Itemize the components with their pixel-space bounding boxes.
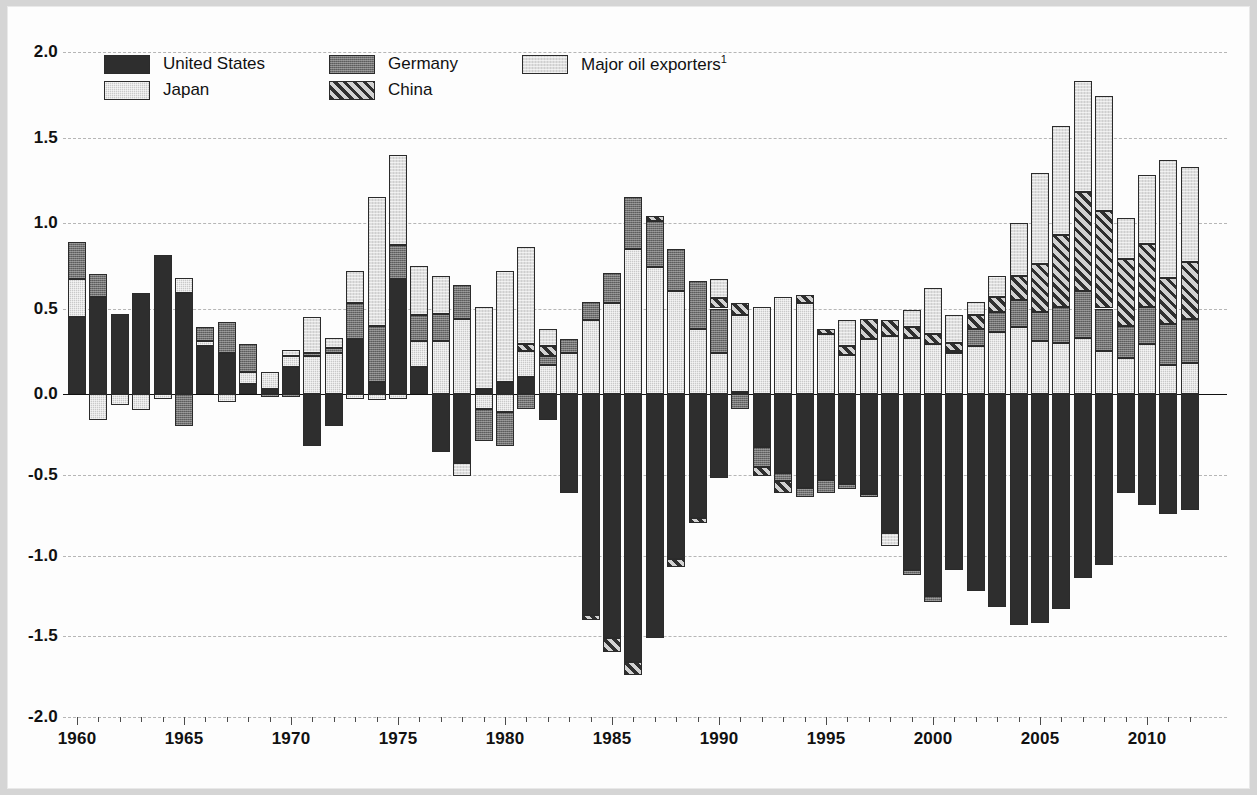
- bar-segment-jp: [175, 278, 193, 293]
- bar-segment-jp: [68, 279, 86, 317]
- bar-segment-jp: [710, 353, 728, 394]
- x-axis-tick-label: 1960: [58, 729, 97, 749]
- x-axis-tick-mark: [312, 717, 313, 722]
- bar-segment-us: [710, 394, 728, 478]
- bar-segment-jp: [774, 297, 792, 394]
- bar-segment-jp: [796, 303, 814, 394]
- bar-segment-cn: [881, 320, 899, 335]
- bar-segment-cn: [539, 346, 557, 356]
- bar-segment-de: [303, 353, 321, 356]
- bar-segment-cn: [860, 319, 878, 340]
- bar-segment-de: [667, 249, 685, 292]
- bar-segment-jp: [689, 329, 707, 394]
- legend-swatch-cn-icon: [329, 81, 375, 100]
- legend-item-de[interactable]: Germany: [329, 53, 458, 75]
- bar-segment-cn: [945, 343, 963, 352]
- bar-segment-jp: [154, 394, 172, 399]
- x-axis-tick-mark: [120, 717, 121, 722]
- bar-segment-us: [988, 394, 1006, 607]
- bar-segment-jp: [903, 338, 921, 394]
- bar-segment-cn: [517, 344, 535, 351]
- bar-segment-jp: [1159, 365, 1177, 394]
- bar-group: [860, 7, 878, 717]
- bar-segment-oil: [1181, 167, 1199, 263]
- bar-group: [624, 7, 642, 717]
- x-axis-tick-mark: [141, 717, 142, 722]
- bar-segment-cn: [1095, 211, 1113, 308]
- bar-segment-us: [410, 367, 428, 394]
- bar-segment-us: [111, 314, 129, 394]
- bar-segment-jp: [539, 365, 557, 394]
- bar-segment-us: [582, 394, 600, 615]
- bar-segment-cn: [1010, 276, 1028, 300]
- bar-segment-us: [924, 394, 942, 596]
- bar-group: [689, 7, 707, 717]
- x-axis-tick-mark: [1126, 717, 1127, 722]
- x-axis-tick-mark: [912, 717, 913, 722]
- x-axis-tick-mark: [1061, 717, 1062, 722]
- bar-segment-us: [1138, 394, 1156, 505]
- bar-segment-jp: [1095, 351, 1113, 394]
- bar-segment-de: [1074, 291, 1092, 337]
- bar-group: [111, 7, 129, 717]
- bar-segment-de: [1052, 307, 1070, 343]
- x-axis-tick-mark: [569, 717, 570, 722]
- bar-segment-jp: [389, 394, 407, 399]
- chart-screenshot: 2.01.51.00.50.0-0.5-1.0-1.5-2.0 19601965…: [0, 0, 1257, 795]
- bar-segment-cn: [1031, 264, 1049, 312]
- x-axis-tick-mark: [954, 717, 955, 722]
- bar-segment-de: [175, 394, 193, 426]
- bar-segment-de: [582, 302, 600, 321]
- bar-segment-us: [646, 394, 664, 638]
- bar-segment-cn: [924, 334, 942, 344]
- bar-segment-cn: [967, 315, 985, 329]
- bar-segment-oil: [1074, 81, 1092, 192]
- bar-segment-cn: [667, 559, 685, 567]
- x-axis-tick-label: 1970: [272, 729, 311, 749]
- bar-group: [389, 7, 407, 717]
- x-axis-tick-mark: [1168, 717, 1169, 722]
- x-axis-tick-mark: [826, 717, 827, 725]
- bar-segment-oil: [539, 329, 557, 346]
- bar-segment-de: [453, 285, 471, 319]
- bar-segment-de: [860, 494, 878, 497]
- bar-segment-oil: [1010, 223, 1028, 276]
- bar-segment-jp: [132, 394, 150, 410]
- x-axis-tick-mark: [248, 717, 249, 722]
- bar-segment-de: [1117, 326, 1135, 358]
- bar-segment-jp: [410, 341, 428, 367]
- x-axis-tick-mark: [933, 717, 934, 725]
- bar-segment-jp: [924, 344, 942, 394]
- bar-segment-oil: [475, 307, 493, 389]
- bar-group: [1095, 7, 1113, 717]
- bar-segment-us: [132, 293, 150, 394]
- bar-segment-oil: [1117, 218, 1135, 259]
- legend-item-us[interactable]: United States: [104, 53, 265, 75]
- bar-group: [196, 7, 214, 717]
- bar-segment-jp: [988, 332, 1006, 394]
- legend-item-oil[interactable]: Major oil exporters1: [522, 53, 727, 75]
- bar-group: [303, 7, 321, 717]
- bar-segment-de: [1010, 300, 1028, 327]
- x-axis-tick-mark: [98, 717, 99, 722]
- legend-item-jp[interactable]: Japan: [104, 79, 265, 101]
- x-axis-tick-label: 1965: [165, 729, 204, 749]
- bar-segment-jp: [646, 267, 664, 394]
- x-axis-tick-mark: [505, 717, 506, 725]
- bar-segment-cn: [1074, 192, 1092, 291]
- bar-segment-de: [475, 409, 493, 441]
- bar-segment-de: [967, 329, 985, 346]
- bar-segment-us: [796, 394, 814, 488]
- legend-label: China: [388, 80, 432, 100]
- bar-segment-jp: [1117, 358, 1135, 394]
- bar-series-group: [8, 7, 1249, 788]
- bar-segment-oil: [1031, 173, 1049, 264]
- bar-segment-oil: [988, 276, 1006, 297]
- legend-item-cn[interactable]: China: [329, 79, 458, 101]
- legend-label: Japan: [163, 80, 209, 100]
- bar-group: [903, 7, 921, 717]
- bar-segment-us: [303, 394, 321, 446]
- bar-segment-us: [624, 394, 642, 662]
- bar-group: [967, 7, 985, 717]
- bar-group: [945, 7, 963, 717]
